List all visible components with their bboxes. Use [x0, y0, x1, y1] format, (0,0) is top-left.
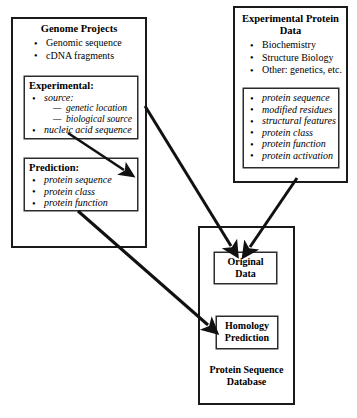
original-data-box: Original Data [214, 252, 277, 284]
list-item: protein class [30, 186, 138, 198]
list-item: protein function [248, 138, 340, 150]
list-item: Structure Biology [248, 52, 348, 65]
homology-prediction-label-line1: Homology [217, 320, 277, 333]
list-item: Genomic sequence [32, 37, 147, 50]
homology-prediction-box: Homology Prediction [216, 316, 278, 349]
list-item: modified residues [248, 104, 340, 116]
experimental-bullets-2: nucleic acid sequence [30, 124, 140, 136]
arrow-experimental-to-original-data [145, 106, 231, 246]
prediction-bullets: protein sequence protein class protein f… [30, 174, 138, 209]
list-item: source: [30, 92, 138, 104]
list-item: Biochemistry [248, 39, 348, 52]
list-item: Other: genetics, etc. [248, 64, 348, 77]
experimental-bullets: source: [30, 92, 138, 104]
list-item: nucleic acid sequence [30, 124, 140, 136]
database-caption-line2: Database [198, 376, 295, 389]
list-item: protein function [30, 197, 138, 209]
list-item: protein activation [248, 150, 340, 162]
protein-details-list: protein sequence modified residues struc… [248, 92, 340, 161]
homology-prediction-label-line2: Prediction [217, 332, 277, 345]
original-data-label-line2: Data [215, 268, 276, 281]
genome-projects-title: Genome Projects [11, 23, 147, 35]
genome-projects-bullets: Genomic sequence cDNA fragments [32, 37, 147, 62]
experimental-protein-data-bullets: Biochemistry Structure Biology Other: ge… [248, 39, 348, 77]
original-data-label-line1: Original [215, 256, 276, 269]
list-item: cDNA fragments [32, 50, 147, 63]
list-item: protein sequence [30, 174, 138, 186]
list-item: structural features [248, 115, 340, 127]
experimental-protein-data-title-line1: Experimental Protein [233, 13, 348, 25]
diagram-canvas: Genome Projects Genomic sequence cDNA fr… [0, 0, 357, 418]
list-item: protein sequence [248, 92, 340, 104]
database-caption-line1: Protein Sequence [198, 364, 295, 377]
prediction-heading: Prediction: [29, 161, 137, 174]
experimental-protein-data-title-line2: Data [233, 25, 348, 37]
list-item: genetic location [54, 103, 142, 114]
list-item: protein class [248, 127, 340, 139]
experimental-sub-items: genetic location biological source [54, 103, 142, 125]
experimental-heading: Experimental: [29, 79, 137, 92]
